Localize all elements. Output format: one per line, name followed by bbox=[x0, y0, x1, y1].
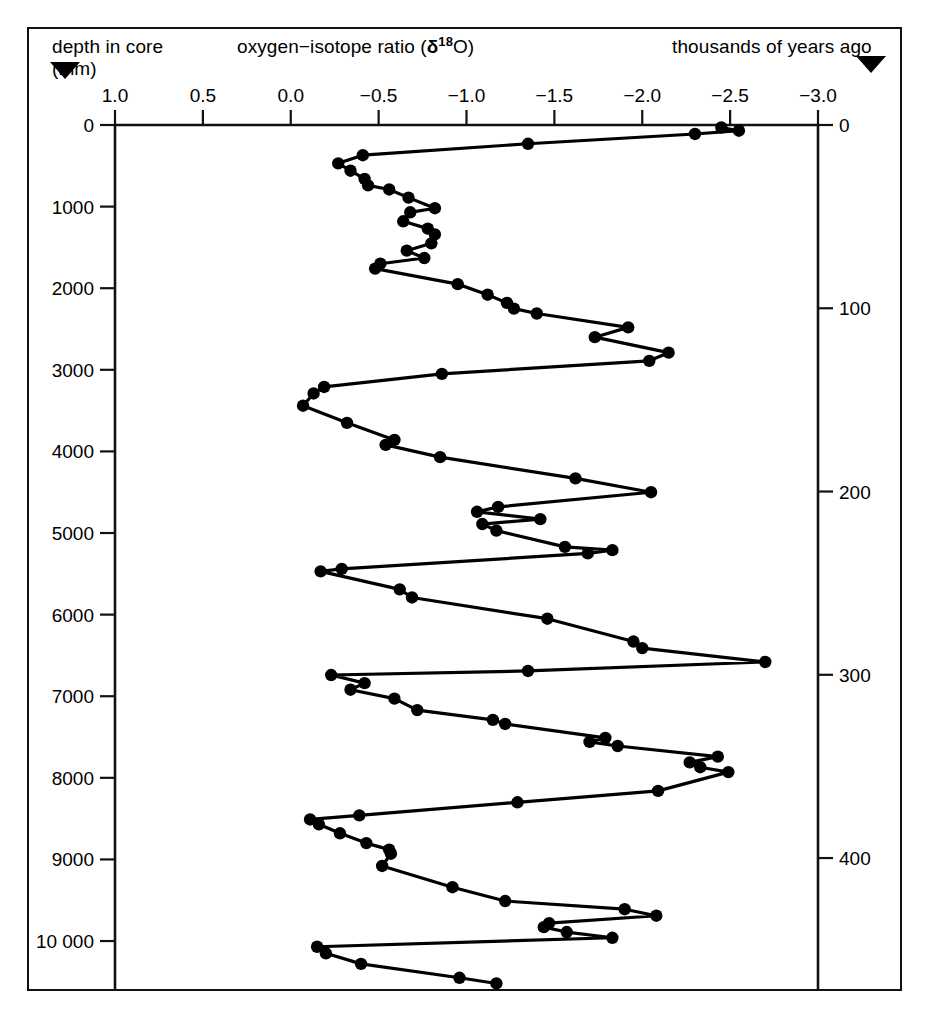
data-point-marker bbox=[355, 958, 367, 970]
data-point-marker bbox=[611, 740, 623, 752]
years-tick-label: 100 bbox=[839, 298, 871, 319]
data-point-marker bbox=[499, 718, 511, 730]
data-point-marker bbox=[538, 921, 550, 933]
data-point-marker bbox=[434, 451, 446, 463]
data-point-marker bbox=[508, 302, 520, 314]
data-point-marker bbox=[599, 732, 611, 744]
data-point-marker bbox=[589, 331, 601, 343]
data-point-marker bbox=[636, 642, 648, 654]
data-point-marker bbox=[569, 472, 581, 484]
tick-labels-group: 1.00.50.0−0.5−1.0−1.5−2.0−2.5−3.00100020… bbox=[36, 85, 871, 952]
data-point-marker bbox=[715, 121, 727, 133]
depth-tick-label: 2000 bbox=[52, 278, 94, 299]
data-point-marker bbox=[313, 818, 325, 830]
isotope-data-line bbox=[303, 127, 765, 983]
data-point-marker bbox=[385, 848, 397, 860]
data-point-marker bbox=[759, 656, 771, 668]
depth-tick-label: 7000 bbox=[52, 686, 94, 707]
depth-tick-label: 6000 bbox=[52, 605, 94, 626]
data-point-marker bbox=[531, 307, 543, 319]
depth-tick-label: 8000 bbox=[52, 768, 94, 789]
data-point-marker bbox=[453, 972, 465, 984]
data-point-marker bbox=[429, 202, 441, 214]
data-point-marker bbox=[618, 903, 630, 915]
data-point-marker bbox=[712, 750, 724, 762]
data-point-marker bbox=[511, 796, 523, 808]
data-point-marker bbox=[353, 809, 365, 821]
data-point-marker bbox=[418, 252, 430, 264]
data-point-marker bbox=[436, 368, 448, 380]
data-point-marker bbox=[541, 613, 553, 625]
data-point-marker bbox=[606, 544, 618, 556]
data-point-marker bbox=[397, 215, 409, 227]
data-point-marker bbox=[492, 501, 504, 513]
data-point-marker bbox=[344, 684, 356, 696]
data-point-marker bbox=[379, 439, 391, 451]
data-series-group bbox=[297, 121, 772, 989]
data-point-marker bbox=[344, 165, 356, 177]
data-point-marker bbox=[452, 278, 464, 290]
data-point-marker bbox=[662, 346, 674, 358]
data-point-marker bbox=[560, 926, 572, 938]
depth-tick-label: 5000 bbox=[52, 523, 94, 544]
years-tick-label: 300 bbox=[839, 665, 871, 686]
data-point-marker bbox=[534, 513, 546, 525]
data-point-marker bbox=[320, 947, 332, 959]
data-point-marker bbox=[401, 244, 413, 256]
depth-tick-label: 3000 bbox=[52, 360, 94, 381]
data-point-marker bbox=[652, 785, 664, 797]
depth-tick-label: 4000 bbox=[52, 441, 94, 462]
ratio-tick-label: −3.0 bbox=[799, 85, 837, 106]
data-point-marker bbox=[358, 677, 370, 689]
data-point-marker bbox=[722, 766, 734, 778]
data-point-marker bbox=[369, 262, 381, 274]
years-tick-label: 400 bbox=[839, 848, 871, 869]
data-point-marker bbox=[297, 400, 309, 412]
chart-plot-area: 1.00.50.0−0.5−1.0−1.5−2.0−2.5−3.00100020… bbox=[0, 0, 929, 1017]
data-point-marker bbox=[314, 565, 326, 577]
data-point-marker bbox=[481, 289, 493, 301]
depth-tick-label: 0 bbox=[83, 115, 94, 136]
data-point-marker bbox=[357, 149, 369, 161]
data-point-marker bbox=[362, 179, 374, 191]
data-point-marker bbox=[490, 977, 502, 989]
data-point-marker bbox=[582, 547, 594, 559]
ratio-tick-label: −0.5 bbox=[360, 85, 398, 106]
data-point-marker bbox=[325, 669, 337, 681]
years-tick-label: 200 bbox=[839, 482, 871, 503]
data-point-marker bbox=[402, 191, 414, 203]
data-point-marker bbox=[645, 486, 657, 498]
data-point-marker bbox=[307, 387, 319, 399]
data-point-marker bbox=[650, 910, 662, 922]
data-point-marker bbox=[336, 563, 348, 575]
data-point-marker bbox=[490, 524, 502, 536]
data-point-marker bbox=[411, 704, 423, 716]
data-point-marker bbox=[694, 761, 706, 773]
data-point-marker bbox=[425, 237, 437, 249]
data-point-marker bbox=[622, 321, 634, 333]
ratio-tick-label: −1.0 bbox=[448, 85, 486, 106]
data-point-marker bbox=[487, 714, 499, 726]
data-point-marker bbox=[388, 692, 400, 704]
axes-group bbox=[115, 125, 818, 990]
depth-tick-label: 10 000 bbox=[36, 931, 94, 952]
depth-tick-label: 1000 bbox=[52, 197, 94, 218]
data-point-marker bbox=[394, 583, 406, 595]
depth-tick-label: 9000 bbox=[52, 849, 94, 870]
data-point-marker bbox=[684, 756, 696, 768]
oxygen-isotope-core-figure: depth in core (mm) oxygen−isotope ratio … bbox=[0, 0, 929, 1017]
data-point-marker bbox=[383, 183, 395, 195]
ratio-tick-label: −2.5 bbox=[711, 85, 749, 106]
data-point-marker bbox=[334, 827, 346, 839]
years-tick-label: 0 bbox=[839, 115, 850, 136]
data-point-marker bbox=[318, 381, 330, 393]
ratio-tick-label: −2.0 bbox=[623, 85, 661, 106]
data-point-marker bbox=[446, 881, 458, 893]
data-point-marker bbox=[406, 591, 418, 603]
tick-marks-group bbox=[100, 110, 833, 941]
data-point-marker bbox=[559, 541, 571, 553]
data-point-marker bbox=[499, 895, 511, 907]
data-point-marker bbox=[376, 860, 388, 872]
data-point-marker bbox=[341, 417, 353, 429]
data-point-marker bbox=[733, 125, 745, 137]
